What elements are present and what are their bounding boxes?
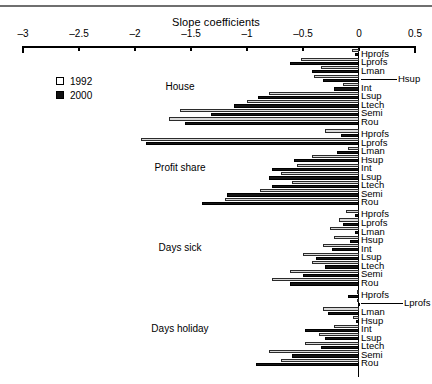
- x-tick-label-2: –2: [115, 28, 155, 39]
- bar-2000: [272, 168, 359, 171]
- bar-2000: [328, 312, 359, 315]
- bar-2000: [355, 231, 359, 234]
- group-label-profit-share: Profit share: [110, 162, 250, 173]
- bar-1992: [357, 290, 359, 293]
- bar-1992: [297, 164, 359, 167]
- bar-1992: [272, 278, 359, 281]
- bar-1992: [247, 100, 359, 103]
- bar-1992: [343, 83, 359, 86]
- x-tick-label-3: –1.5: [171, 28, 211, 39]
- bar-2000: [332, 248, 359, 251]
- bar-2000: [334, 87, 359, 90]
- top-divider-rule: [0, 5, 432, 7]
- bar-1992: [325, 129, 359, 132]
- bar-2000: [234, 104, 359, 107]
- slope-coefficients-chart: Slope coefficients –3–2.5–2–1.5–1–0.500.…: [0, 0, 432, 384]
- bar-1992: [169, 117, 359, 120]
- bar-2000: [292, 354, 359, 357]
- bar-1992: [357, 299, 359, 302]
- bar-2000: [146, 142, 359, 145]
- bar-2000: [341, 134, 359, 137]
- bar-1992: [290, 270, 359, 273]
- category-label: Rou: [361, 197, 378, 207]
- bar-2000: [343, 223, 359, 226]
- category-label: Rou: [361, 117, 378, 127]
- x-tick-label-1: –2.5: [59, 28, 99, 39]
- category-label: Rou: [361, 278, 378, 288]
- category-label: Rou: [361, 358, 378, 368]
- bar-1992: [352, 49, 359, 52]
- bar-2000: [350, 240, 359, 243]
- bar-2000: [305, 329, 359, 332]
- bar-1992: [292, 181, 359, 184]
- bar-2000: [269, 176, 359, 179]
- bar-2000: [256, 363, 359, 366]
- bar-2000: [321, 346, 359, 349]
- x-tick-label-7: 0.5: [395, 28, 432, 39]
- bar-1992: [303, 253, 359, 256]
- bar-1992: [319, 333, 359, 336]
- bar-1992: [314, 75, 359, 78]
- bar-1992: [260, 189, 359, 192]
- bar-1992: [305, 342, 359, 345]
- bar-1992: [348, 147, 359, 150]
- bar-2000: [272, 185, 359, 188]
- bar-2000: [258, 96, 359, 99]
- bar-2000: [355, 53, 359, 56]
- bar-1992: [269, 350, 359, 353]
- bar-2000: [211, 113, 359, 116]
- x-tick-label-4: –1: [227, 28, 267, 39]
- bar-1992: [269, 92, 359, 95]
- bar-2000: [202, 202, 359, 205]
- bar-1992: [323, 244, 359, 247]
- bar-2000: [290, 62, 359, 65]
- bar-2000: [185, 122, 359, 125]
- bar-2000: [358, 303, 360, 306]
- bar-1992: [281, 172, 359, 175]
- bar-2000: [227, 193, 359, 196]
- bar-2000: [348, 295, 359, 298]
- x-tick-label-0: –3: [3, 28, 43, 39]
- bar-1992: [312, 261, 359, 264]
- group-label-days-sick: Days sick: [110, 242, 250, 253]
- bar-2000: [323, 79, 359, 82]
- bar-2000: [356, 320, 359, 323]
- bar-1992: [330, 227, 359, 230]
- bar-2000: [303, 274, 359, 277]
- bar-1992: [339, 218, 359, 221]
- bar-1992: [141, 138, 359, 141]
- bar-1992: [312, 155, 359, 158]
- x-tick-label-6: 0: [339, 28, 379, 39]
- bar-1992: [321, 66, 359, 69]
- bar-2000: [325, 337, 359, 340]
- bar-2000: [325, 265, 359, 268]
- x-axis-line: [23, 46, 415, 48]
- bar-2000: [312, 70, 359, 73]
- bar-1992: [353, 316, 359, 319]
- bar-1992: [334, 325, 359, 328]
- bar-1992: [346, 210, 359, 213]
- bar-1992: [334, 236, 359, 239]
- bar-2000: [316, 257, 359, 260]
- bar-1992: [301, 58, 359, 61]
- x-tick-label-5: –0.5: [283, 28, 323, 39]
- bar-2000: [355, 214, 359, 217]
- bar-2000: [290, 282, 359, 285]
- bar-2000: [337, 151, 359, 154]
- group-label-days-holiday: Days holiday: [110, 323, 250, 334]
- bar-2000: [294, 159, 359, 162]
- bar-1992: [323, 307, 359, 310]
- bar-1992: [225, 198, 359, 201]
- bar-1992: [281, 359, 359, 362]
- bar-1992: [180, 109, 359, 112]
- chart-title: Slope coefficients: [0, 16, 432, 28]
- group-label-house: House: [110, 81, 250, 92]
